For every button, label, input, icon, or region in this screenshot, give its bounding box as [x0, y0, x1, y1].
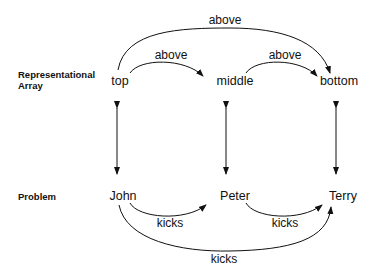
row-label-representational-array: Representational Array [18, 69, 95, 91]
edge-label-john-terry: kicks [211, 252, 238, 266]
edge-top-middle [130, 62, 203, 76]
node-top: top [111, 74, 128, 88]
node-bottom: bottom [320, 74, 358, 88]
row-label-problem: Problem [18, 191, 56, 202]
row-label-line2: Array [18, 80, 95, 91]
edge-label-john-peter: kicks [157, 216, 184, 230]
node-middle: middle [217, 74, 254, 88]
row-label-line1: Representational [18, 69, 95, 80]
edge-label-top-bottom: above [209, 13, 242, 27]
node-john: John [109, 189, 136, 203]
edge-peter-terry [246, 203, 322, 216]
edge-john-terry [119, 205, 331, 251]
edge-label-peter-terry: kicks [272, 216, 299, 230]
edge-john-peter [130, 203, 206, 216]
edge-label-middle-bottom: above [269, 48, 302, 62]
node-peter: Peter [220, 189, 250, 203]
edge-label-top-middle: above [155, 48, 188, 62]
edge-middle-bottom [246, 62, 317, 76]
node-terry: Terry [329, 189, 357, 203]
diagram-canvas [0, 0, 375, 280]
